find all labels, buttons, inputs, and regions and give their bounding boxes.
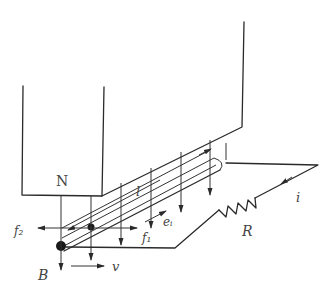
emf-label: eᵢ <box>163 215 173 229</box>
length-indicator <box>74 180 160 226</box>
pole-label: N <box>56 173 68 189</box>
magnet-n-pole <box>22 22 244 196</box>
current-arrow <box>281 177 292 184</box>
resistor-label: R <box>241 223 253 239</box>
length-label: l <box>136 184 140 199</box>
resistor <box>219 198 256 217</box>
diagram-canvas: N l f₂ f₁ eᵢ R i B v <box>0 0 331 294</box>
field-lines <box>61 140 226 270</box>
field-label: B <box>37 267 48 283</box>
force-f2-label: f₂ <box>13 224 23 238</box>
emf-arrow-upper <box>199 149 211 155</box>
velocity-label: v <box>112 259 120 274</box>
conductor-end-cap <box>214 158 222 170</box>
force-f1-label: f₁ <box>141 231 151 245</box>
current-label: i <box>296 190 300 205</box>
circuit-wire-top <box>226 163 318 198</box>
